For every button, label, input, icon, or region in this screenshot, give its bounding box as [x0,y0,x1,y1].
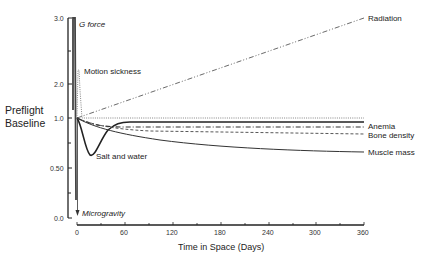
x-tick-180: 180 [214,229,226,236]
y-axis-label: Preflight Baseline [5,104,45,129]
y-tick-1: 1.0 [54,115,64,122]
x-tick-360: 360 [357,229,369,236]
x-tick-0: 0 [75,229,79,236]
y-tick-0: 0.0 [54,215,64,222]
x-tick-120: 120 [166,229,178,236]
x-tick-240: 240 [262,229,274,236]
label-microgravity: Microgravity [82,210,125,218]
y-axis-label-line2: Baseline [5,117,45,130]
x-tick-60: 60 [120,229,128,236]
y-tick-3: 3.0 [54,15,64,22]
y-axis-label-line1: Preflight [5,104,45,117]
label-muscle-mass: Muscle mass [368,149,415,157]
x-axis-label: Time in Space (Days) [178,242,264,252]
label-radiation: Radiation [368,15,402,23]
x-tick-300: 300 [309,229,321,236]
series-bone-density [77,118,364,134]
series-g-force [73,18,76,200]
label-motion-sickness: Motion sickness [84,68,141,76]
series-salt-water [77,118,364,155]
y-tick-050: 0.50 [50,165,64,172]
label-salt-water: Salt and water [96,153,147,161]
label-anemia: Anemia [368,123,395,131]
label-bone-density: Bone density [368,132,414,140]
label-g-force: G force [79,21,105,29]
y-tick-2: 2.0 [54,81,64,88]
series-motion-sickness [77,70,364,118]
